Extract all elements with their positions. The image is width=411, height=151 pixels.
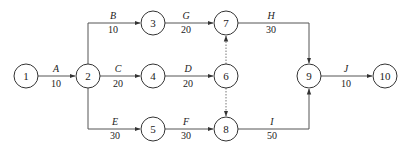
- node-4-label: 4: [150, 70, 156, 82]
- node-4: 4: [141, 64, 165, 88]
- network-diagram: A 10 B 10 C 20 E 30 G 20 D 20 F 30 H 30 …: [0, 0, 411, 151]
- activity-g-duration: 20: [181, 24, 191, 35]
- activity-h-name: H: [266, 10, 275, 21]
- node-2: 2: [76, 64, 100, 88]
- node-5: 5: [141, 117, 165, 141]
- activity-d-duration: 20: [183, 78, 193, 89]
- node-9: 9: [297, 64, 321, 88]
- node-10: 10: [373, 64, 397, 88]
- node-7: 7: [214, 11, 238, 35]
- node-10-label: 10: [380, 70, 392, 82]
- activity-f-duration: 30: [181, 130, 191, 141]
- activity-e-name: E: [111, 116, 118, 127]
- node-2-label: 2: [85, 70, 91, 82]
- activity-e-duration: 30: [110, 130, 120, 141]
- activity-i-name: I: [269, 116, 274, 127]
- activity-a-name: A: [52, 63, 60, 74]
- node-9-label: 9: [306, 70, 312, 82]
- activity-i-duration: 50: [267, 130, 277, 141]
- node-6-label: 6: [223, 70, 229, 82]
- node-7-label: 7: [223, 17, 229, 29]
- activity-a-duration: 10: [51, 78, 61, 89]
- activity-g-name: G: [182, 10, 189, 21]
- node-8-label: 8: [223, 123, 229, 135]
- activity-b-duration: 10: [108, 24, 118, 35]
- activity-c-name: C: [115, 63, 122, 74]
- node-6: 6: [214, 64, 238, 88]
- node-3-label: 3: [150, 17, 156, 29]
- node-8: 8: [214, 117, 238, 141]
- activity-j-duration: 10: [341, 78, 351, 89]
- node-5-label: 5: [150, 123, 156, 135]
- activity-h-duration: 30: [266, 24, 276, 35]
- activity-j-name: J: [344, 63, 349, 74]
- activity-f-name: F: [182, 116, 190, 127]
- activity-c-duration: 20: [113, 78, 123, 89]
- activity-b-name: B: [110, 10, 116, 21]
- activity-d-name: D: [183, 63, 192, 74]
- node-1: 1: [14, 64, 38, 88]
- node-1-label: 1: [23, 70, 29, 82]
- node-3: 3: [141, 11, 165, 35]
